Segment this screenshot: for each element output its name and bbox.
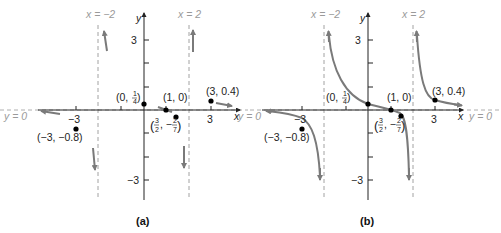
svg-text:3: 3 bbox=[379, 117, 383, 124]
svg-text:): ) bbox=[347, 91, 351, 103]
label-point-0-quarter: (0, 1 4 ) bbox=[326, 90, 351, 105]
tick-x-3: 3 bbox=[431, 113, 437, 125]
tick-x-3: 3 bbox=[207, 113, 213, 125]
tick-y-3: 3 bbox=[131, 34, 137, 46]
horizontal-asymptote-label: y = 0 bbox=[3, 110, 27, 122]
svg-text:2: 2 bbox=[155, 126, 159, 133]
tick-y-3: 3 bbox=[355, 34, 361, 46]
horizontal-asymptote-label-left: y = 0 bbox=[237, 110, 261, 122]
point-0-quarter bbox=[141, 101, 146, 106]
svg-text:): ) bbox=[137, 91, 141, 103]
caption-a: (a) bbox=[136, 215, 150, 227]
y-axis-label: y bbox=[135, 12, 142, 24]
tick-x-minus3: −3 bbox=[68, 113, 80, 125]
x-axis-label: x bbox=[457, 110, 464, 122]
point-1-0 bbox=[163, 107, 168, 112]
label-point-0-quarter: (0, 1 4 ) bbox=[116, 90, 141, 105]
label-point-1.5: ( 3 2 , − 2 7 ) bbox=[150, 117, 181, 133]
label-point-1.5: ( 3 2 , − 2 7 ) bbox=[374, 117, 405, 133]
svg-text:(0,: (0, bbox=[116, 91, 128, 103]
svg-text:(0,: (0, bbox=[326, 91, 338, 103]
svg-text:, −: , − bbox=[384, 118, 396, 130]
svg-text:, −: , − bbox=[160, 118, 172, 130]
arrow-neg-inf-to-zero bbox=[41, 111, 60, 114]
asymptote-right-label: x = 2 bbox=[401, 8, 425, 20]
point-1-0 bbox=[388, 107, 393, 112]
svg-text:): ) bbox=[401, 118, 405, 133]
svg-text:2: 2 bbox=[379, 126, 383, 133]
label-point-minus3: (−3, −0.8) bbox=[264, 131, 310, 143]
y-axis-label: y bbox=[359, 12, 366, 24]
tick-y-minus3: −3 bbox=[351, 174, 363, 186]
svg-text:3: 3 bbox=[155, 117, 159, 124]
arrow-pos-inf-to-zero bbox=[216, 103, 232, 106]
point-3-0.4 bbox=[432, 97, 437, 102]
tick-y-minus3: −3 bbox=[127, 174, 139, 186]
label-point-3-0.4: (3, 0.4) bbox=[432, 85, 465, 97]
asymptote-left-label: x = −2 bbox=[310, 8, 340, 20]
asymptote-left-label: x = −2 bbox=[85, 8, 115, 20]
arrow-right-of-minus2-up bbox=[104, 31, 107, 51]
svg-text:): ) bbox=[177, 118, 181, 133]
panel-a: x = −2 x = 2 y x 3 −3 −3 3 y = 0 (0, 1 4… bbox=[0, 8, 248, 227]
point-3-0.4 bbox=[208, 98, 213, 103]
label-point-3-0.4: (3, 0.4) bbox=[206, 85, 239, 97]
label-point-1-0: (1, 0) bbox=[387, 91, 412, 103]
arrow-left-of-minus2-down bbox=[93, 148, 95, 170]
tick-x-minus3: −3 bbox=[294, 113, 306, 125]
horizontal-asymptote-label-right: y = 0 bbox=[468, 110, 492, 122]
panel-b: x = −2 x = 2 y x 3 −3 −3 3 y = 0 y = 0 (… bbox=[237, 8, 501, 227]
figure: x = −2 x = 2 y x 3 −3 −3 3 y = 0 (0, 1 4… bbox=[0, 0, 501, 233]
label-point-1-0: (1, 0) bbox=[163, 91, 188, 103]
asymptote-right-label: x = 2 bbox=[177, 8, 201, 20]
label-point-minus3: (−3, −0.8) bbox=[37, 131, 83, 143]
caption-b: (b) bbox=[360, 215, 374, 227]
point-0-quarter bbox=[365, 101, 370, 106]
